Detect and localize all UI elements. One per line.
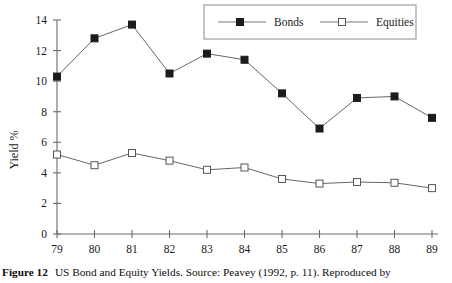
y-tick-label: 14	[36, 14, 48, 26]
x-tick-label: 87	[351, 243, 363, 255]
data-point-bonds-81	[129, 21, 136, 28]
data-point-bonds-79	[54, 73, 61, 80]
series-line-bonds	[57, 25, 432, 129]
y-tick-label: 6	[41, 136, 47, 148]
data-point-bonds-87	[354, 94, 361, 101]
data-point-bonds-85	[279, 90, 286, 97]
legend-label-equities: Equities	[376, 16, 414, 29]
y-axis-title: Yield %	[7, 131, 21, 170]
y-tick-label: 10	[36, 75, 48, 87]
legend-label-bonds: Bonds	[274, 16, 304, 28]
data-point-bonds-80	[91, 35, 98, 42]
legend-marker-equities	[339, 19, 346, 26]
data-point-equities-86	[316, 180, 323, 187]
data-point-equities-89	[429, 185, 436, 192]
x-tick-label: 83	[201, 243, 213, 255]
data-point-bonds-89	[429, 114, 436, 121]
data-series-layer	[54, 21, 436, 192]
x-tick-labels: 7980818283848586878889	[51, 243, 438, 255]
y-tick-labels: 02468101214	[36, 14, 48, 240]
x-tick-label: 88	[389, 243, 401, 255]
data-point-equities-83	[204, 166, 211, 173]
figure-caption-label: Figure 12	[2, 266, 48, 278]
data-point-bonds-84	[241, 56, 248, 63]
data-point-bonds-86	[316, 125, 323, 132]
x-tick-label: 82	[164, 243, 176, 255]
data-point-bonds-88	[391, 93, 398, 100]
x-tick-label: 81	[126, 243, 138, 255]
data-point-bonds-83	[204, 50, 211, 57]
x-tick-label: 86	[314, 243, 326, 255]
figure-caption-text: US Bond and Equity Yields. Source: Peave…	[55, 266, 391, 278]
data-point-equities-79	[54, 151, 61, 158]
x-tick-label: 89	[426, 243, 438, 255]
chart-legend: BondsEquities	[204, 5, 416, 39]
data-point-equities-85	[279, 175, 286, 182]
y-tick-label: 8	[41, 106, 47, 118]
data-point-bonds-82	[166, 70, 173, 77]
y-tick-label: 12	[36, 45, 48, 57]
figure-caption: Figure 12US Bond and Equity Yields. Sour…	[2, 265, 452, 279]
data-point-equities-87	[354, 179, 361, 186]
x-tick-label: 79	[51, 243, 63, 255]
data-point-equities-88	[391, 179, 398, 186]
x-tick-label: 84	[239, 243, 251, 255]
data-point-equities-84	[241, 164, 248, 171]
data-point-equities-82	[166, 157, 173, 164]
y-tick-label: 2	[41, 197, 47, 209]
series-equities	[54, 149, 436, 191]
y-tick-label: 4	[41, 167, 47, 179]
x-tick-label: 85	[276, 243, 288, 255]
x-tick-label: 80	[89, 243, 101, 255]
chart-plot: 02468101214 7980818283848586878889 Yield…	[0, 0, 452, 262]
data-point-equities-80	[91, 162, 98, 169]
y-tick-label: 0	[41, 228, 47, 240]
figure-container: 02468101214 7980818283848586878889 Yield…	[0, 0, 452, 283]
legend-marker-bonds	[237, 19, 244, 26]
data-point-equities-81	[129, 149, 136, 156]
